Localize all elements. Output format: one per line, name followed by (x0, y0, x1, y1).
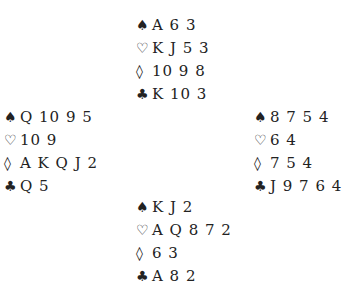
south-diamonds: ◊6 3 (136, 242, 232, 265)
south-clubs-cards: A 8 2 (152, 267, 196, 285)
west-diamonds-cards: A K Q J 2 (20, 154, 98, 172)
east-spades-cards: 8 7 5 4 (270, 108, 329, 126)
south-hand: ♠K J 2 ♡A Q 8 7 2 ◊6 3 ♣A 8 2 (136, 196, 232, 288)
north-hand: ♠A 6 3 ♡K J 5 3 ◊10 9 8 ♣K 10 3 (136, 14, 210, 106)
spade-icon: ♠ (254, 106, 270, 129)
west-hearts: ♡10 9 (4, 129, 98, 152)
spade-icon: ♠ (136, 196, 152, 219)
north-diamonds-cards: 10 9 8 (152, 62, 206, 80)
heart-icon: ♡ (254, 129, 270, 152)
diamond-icon: ◊ (136, 60, 152, 83)
east-clubs-cards: J 9 7 6 4 (270, 177, 342, 195)
south-clubs: ♣A 8 2 (136, 265, 232, 288)
west-hand: ♠Q 10 9 5 ♡10 9 ◊A K Q J 2 ♣Q 5 (4, 106, 98, 198)
east-clubs: ♣J 9 7 6 4 (254, 175, 342, 198)
east-hearts: ♡6 4 (254, 129, 342, 152)
north-diamonds: ◊10 9 8 (136, 60, 210, 83)
north-clubs: ♣K 10 3 (136, 83, 210, 106)
club-icon: ♣ (254, 175, 270, 198)
diamond-icon: ◊ (136, 242, 152, 265)
spade-icon: ♠ (4, 106, 20, 129)
west-clubs: ♣Q 5 (4, 175, 98, 198)
south-diamonds-cards: 6 3 (152, 244, 179, 262)
west-hearts-cards: 10 9 (20, 131, 57, 149)
south-spades: ♠K J 2 (136, 196, 232, 219)
north-hearts-cards: K J 5 3 (152, 39, 210, 57)
east-spades: ♠8 7 5 4 (254, 106, 342, 129)
west-spades: ♠Q 10 9 5 (4, 106, 98, 129)
south-hearts: ♡A Q 8 7 2 (136, 219, 232, 242)
club-icon: ♣ (136, 83, 152, 106)
east-diamonds: ◊7 5 4 (254, 152, 342, 175)
heart-icon: ♡ (136, 37, 152, 60)
east-hand: ♠8 7 5 4 ♡6 4 ◊7 5 4 ♣J 9 7 6 4 (254, 106, 342, 198)
heart-icon: ♡ (136, 219, 152, 242)
diamond-icon: ◊ (4, 152, 20, 175)
spade-icon: ♠ (136, 14, 152, 37)
heart-icon: ♡ (4, 129, 20, 152)
north-clubs-cards: K 10 3 (152, 85, 207, 103)
north-spades: ♠A 6 3 (136, 14, 210, 37)
west-clubs-cards: Q 5 (20, 177, 50, 195)
west-diamonds: ◊A K Q J 2 (4, 152, 98, 175)
east-hearts-cards: 6 4 (270, 131, 297, 149)
north-hearts: ♡K J 5 3 (136, 37, 210, 60)
club-icon: ♣ (4, 175, 20, 198)
club-icon: ♣ (136, 265, 152, 288)
north-spades-cards: A 6 3 (152, 16, 196, 34)
west-spades-cards: Q 10 9 5 (20, 108, 93, 126)
south-hearts-cards: A Q 8 7 2 (152, 221, 232, 239)
east-diamonds-cards: 7 5 4 (270, 154, 313, 172)
diamond-icon: ◊ (254, 152, 270, 175)
south-spades-cards: K J 2 (152, 198, 193, 216)
